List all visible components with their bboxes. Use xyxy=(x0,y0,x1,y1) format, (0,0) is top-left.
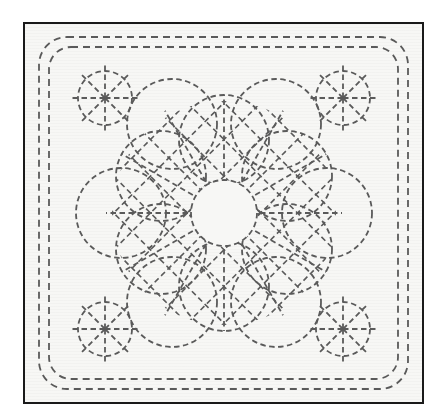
wheel-spoke xyxy=(320,98,343,121)
bottom-right-wheel xyxy=(310,296,376,362)
radial-spoke xyxy=(242,244,283,315)
sashiko-pattern-drawing xyxy=(25,24,422,402)
radial-spoke xyxy=(242,111,283,182)
lattice-line xyxy=(265,254,329,318)
radial-spoke xyxy=(122,154,193,195)
wheel-spoke xyxy=(82,306,105,329)
wheel-spoke xyxy=(343,329,366,352)
wheel-spoke xyxy=(343,75,366,98)
radial-spoke xyxy=(255,154,326,195)
radial-spoke xyxy=(255,231,326,272)
wheel-spoke xyxy=(320,306,343,329)
center-circle xyxy=(191,180,257,246)
bottom-left-wheel xyxy=(72,296,138,362)
wheel-spoke xyxy=(105,306,128,329)
radial-spoke xyxy=(122,231,193,272)
wheel-spoke xyxy=(105,329,128,352)
wheel-spoke xyxy=(82,75,105,98)
wheel-spoke xyxy=(343,98,366,121)
center-circle xyxy=(191,180,257,246)
wheel-spoke xyxy=(320,75,343,98)
wheel-spoke xyxy=(105,75,128,98)
radial-spoke xyxy=(165,244,206,315)
wheel-spoke xyxy=(343,306,366,329)
pattern-frame xyxy=(23,22,424,404)
wheel-spoke xyxy=(82,98,105,121)
wheel-spoke xyxy=(82,329,105,352)
top-left-wheel xyxy=(72,65,138,131)
pattern-page xyxy=(0,0,445,420)
radial-spoke xyxy=(165,111,206,182)
top-right-wheel xyxy=(310,65,376,131)
wheel-spoke xyxy=(320,329,343,352)
wheel-spoke xyxy=(105,98,128,121)
